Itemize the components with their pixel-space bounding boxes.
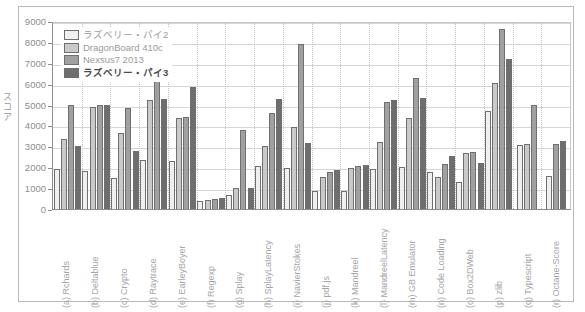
bar [197, 201, 203, 209]
x-label-cell: (k) Mandreel [340, 212, 369, 308]
legend-item: DragonBoard 410c [64, 42, 168, 55]
bar [327, 172, 333, 209]
legend-label: ラズベリー・パイ3 [83, 68, 168, 78]
bar [118, 133, 124, 209]
x-axis-label: (n) Code Loading [437, 214, 446, 308]
bar [133, 151, 139, 209]
bar [276, 99, 282, 209]
bar [499, 29, 505, 209]
x-axis-label: (b) Deltablue [91, 214, 100, 308]
bar [456, 182, 462, 209]
x-label-cell: (o) Box2DWeb [456, 212, 485, 308]
bar [219, 198, 225, 209]
bar-group [484, 23, 513, 209]
bar-group [369, 23, 398, 209]
bar-group [427, 23, 456, 209]
y-tick-mark [48, 210, 52, 211]
x-axis-label: (j) pdf.js [322, 214, 331, 308]
x-axis-label: (q) Typescript [524, 214, 533, 308]
x-label-cell: (i) NavierStokes [283, 212, 312, 308]
bar [233, 188, 239, 209]
bar [147, 100, 153, 209]
bar [269, 113, 275, 209]
bar [334, 170, 340, 209]
bar [420, 98, 426, 209]
x-label-cell: (n) Code Loading [427, 212, 456, 308]
bar-group [197, 23, 226, 209]
bar [406, 118, 412, 209]
x-axis-label: (r) Octane-Score [552, 214, 561, 308]
bar [291, 127, 297, 209]
bar-group [542, 23, 571, 209]
bar [413, 78, 419, 209]
bar [54, 169, 60, 209]
legend-label: ラズベリー・パイ2 [83, 30, 168, 40]
bar [320, 177, 326, 209]
bar-group [226, 23, 255, 209]
x-axis-label: (a) Rchards [62, 214, 71, 308]
y-tick-label: 1000 [0, 184, 46, 193]
bar [226, 195, 232, 209]
x-label-cell: (c) Crypto [110, 212, 139, 308]
x-label-cell: (p) zlib [484, 212, 513, 308]
bar [524, 144, 530, 209]
bar [553, 144, 559, 209]
x-axis-label: (g) Splay [235, 214, 244, 308]
bar [111, 178, 117, 209]
x-label-cell: (q) Typescript [513, 212, 542, 308]
bar [176, 118, 182, 209]
bar [506, 59, 512, 209]
x-label-cell: (b) Deltablue [81, 212, 110, 308]
x-axis-label: (f) Regexp [207, 214, 216, 308]
x-label-cell: (j) pdf.js [311, 212, 340, 308]
bar [377, 142, 383, 209]
x-axis-label: (m) GB Emulator [408, 214, 417, 308]
x-axis-label: (d) Raytrace [149, 214, 158, 308]
bar [341, 191, 347, 209]
chart-root: ス コ ア 0100020003000400050006000700080009… [0, 0, 585, 312]
x-axis-label: (h) SplayLatency [264, 214, 273, 308]
y-tick-label: 4000 [0, 121, 46, 130]
y-tick-label: 0 [0, 205, 46, 214]
y-tick-label: 6000 [0, 80, 46, 89]
bar [68, 105, 74, 209]
bar [492, 83, 498, 209]
bar [298, 44, 304, 209]
bar [478, 163, 484, 209]
bar [190, 87, 196, 209]
bar-group [456, 23, 485, 209]
bar [312, 191, 318, 209]
bar [370, 169, 376, 209]
x-label-cell: (g) Splay [225, 212, 254, 308]
x-label-cell: (m) GB Emulator [398, 212, 427, 308]
y-tick-label: 2000 [0, 163, 46, 172]
bar-group [254, 23, 283, 209]
x-label-cell: (e) EarleyBoyer [167, 212, 196, 308]
bar-group [168, 23, 197, 209]
legend-item: ラズベリー・パイ2 [64, 29, 168, 42]
bar [391, 100, 397, 209]
bar [240, 130, 246, 209]
bar [183, 117, 189, 209]
y-tick-label: 8000 [0, 38, 46, 47]
bar-group [398, 23, 427, 209]
bar [82, 171, 88, 209]
bar [161, 99, 167, 209]
bar [140, 160, 146, 209]
x-axis-label: (l) MandreelLatency [380, 214, 389, 308]
bar [384, 102, 390, 209]
bar [449, 156, 455, 209]
bar [255, 166, 261, 209]
bar [75, 146, 81, 209]
bar [97, 105, 103, 209]
y-tick-label: 3000 [0, 142, 46, 151]
bar [485, 111, 491, 209]
bar [61, 139, 67, 209]
bar-group [283, 23, 312, 209]
bar [284, 168, 290, 209]
legend-swatch-icon [64, 30, 79, 40]
x-label-cell: (f) Regexp [196, 212, 225, 308]
bar-group [312, 23, 341, 209]
x-label-cell: (l) MandreelLatency [369, 212, 398, 308]
y-tick-label: 9000 [0, 17, 46, 26]
